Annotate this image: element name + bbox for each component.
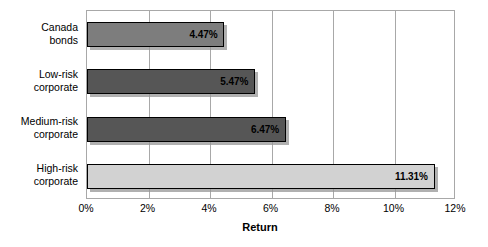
bar-value-label: 5.47% [220,76,254,87]
bar-value-label: 4.47% [190,29,224,40]
plot-area: 4.47%5.47%6.47%11.31% [86,10,455,199]
x-axis-tick-label: 0% [78,202,93,214]
x-axis-title-label: Return [242,221,277,233]
x-axis-tick-label: 12% [444,202,465,214]
bar: 5.47% [87,69,255,94]
x-axis-tick-label: 4% [201,202,216,214]
x-axis-tick-label: 6% [263,202,278,214]
bar-row: 11.31% [87,153,454,200]
x-axis-tick-labels: 0%2%4%6%8%10%12% [0,202,488,218]
bar-row: 5.47% [87,58,454,105]
bar-value-label: 11.31% [395,171,434,182]
y-axis-category-label: Medium-risk corporate [0,115,78,141]
bar: 6.47% [87,117,286,142]
x-axis-tick-label: 2% [140,202,155,214]
x-axis-title: Return [0,221,488,233]
bar: 4.47% [87,22,224,47]
x-axis-tick-label: 10% [383,202,404,214]
bar: 11.31% [87,164,435,189]
bar-value-label: 6.47% [251,124,285,135]
bar-chart: 4.47%5.47%6.47%11.31% Canada bondsLow-ri… [0,0,488,247]
y-axis-category-label: High-risk corporate [0,162,78,188]
x-axis-tick-label: 8% [324,202,339,214]
y-axis-category-labels: Canada bondsLow-risk corporateMedium-ris… [0,10,82,199]
y-axis-category-label: Low-risk corporate [0,68,78,94]
bar-row: 4.47% [87,11,454,58]
y-axis-category-label: Canada bonds [0,21,78,47]
bar-row: 6.47% [87,106,454,153]
